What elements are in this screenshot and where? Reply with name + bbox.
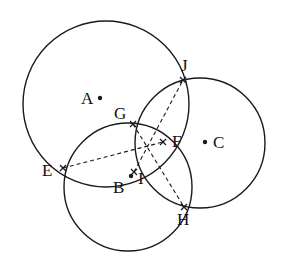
center-label-a: A [81,90,93,107]
point-label-i: I [138,170,144,187]
center-label-c: C [213,134,224,151]
center-dot-b [129,174,133,178]
point-label-g: G [114,105,126,122]
circle-c [135,78,265,208]
center-label-b: B [113,179,124,196]
point-label-j: J [181,57,188,74]
center-dot-a [98,96,102,100]
point-label-e: E [42,162,52,179]
geometry-figure: A B C E F G H I J [0,0,282,256]
point-label-f: F [172,133,181,150]
point-label-h: H [177,211,189,228]
center-dot-c [203,140,207,144]
circles-group [23,21,265,251]
geometry-canvas [0,0,282,256]
